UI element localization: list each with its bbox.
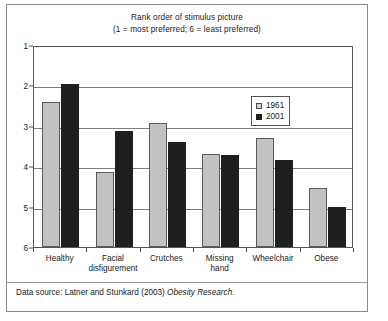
bar-2001-wheelchair bbox=[275, 160, 293, 247]
footer-divider bbox=[7, 282, 367, 283]
source-note-prefix: Data source: Latner and Stunkard (2003) bbox=[16, 288, 167, 297]
bar-1961-wheelchair bbox=[256, 138, 274, 247]
plot-area bbox=[33, 46, 353, 248]
bar-1961-missing-hand bbox=[202, 154, 220, 247]
x-axis-tick-mark bbox=[33, 248, 34, 252]
y-axis-tick-mark bbox=[29, 86, 33, 87]
x-axis-label-line: disfigurement bbox=[86, 264, 139, 274]
y-axis-tick-label: 2 bbox=[8, 82, 28, 91]
x-axis-label-obese: Obese bbox=[300, 254, 353, 264]
y-axis-tick-label: 3 bbox=[8, 122, 28, 131]
x-axis-label-line: Facial bbox=[86, 254, 139, 264]
chart-title-line-2: (1 = most preferred; 6 = least preferred… bbox=[7, 24, 367, 36]
x-axis-label-wheelchair: Wheelchair bbox=[246, 254, 299, 264]
y-axis-tick-label: 4 bbox=[8, 163, 28, 172]
y-axis-tick-label: 5 bbox=[8, 203, 28, 212]
bar-2001-crutches bbox=[168, 142, 186, 247]
legend-item-2001: 2001 bbox=[256, 111, 284, 122]
x-axis-label-line: Wheelchair bbox=[246, 254, 299, 264]
x-axis-tick-mark bbox=[300, 248, 301, 252]
source-note-suffix: . bbox=[232, 288, 234, 297]
bar-2001-facial-disfigurement bbox=[115, 131, 133, 247]
x-axis-labels: HealthyFacialdisfigurementCrutchesMissin… bbox=[33, 254, 353, 282]
x-axis-label-crutches: Crutches bbox=[140, 254, 193, 264]
bar-1961-crutches bbox=[149, 123, 167, 247]
x-axis-label-missing-hand: Missinghand bbox=[193, 254, 246, 274]
y-axis-tick-label: 1 bbox=[8, 42, 28, 51]
legend-label-1961: 1961 bbox=[266, 101, 284, 110]
x-axis-label-line: Crutches bbox=[140, 254, 193, 264]
x-axis-label-line: Obese bbox=[300, 254, 353, 264]
y-axis-tick-mark bbox=[29, 46, 33, 47]
y-axis-tick-label: 6 bbox=[8, 244, 28, 253]
x-axis-label-healthy: Healthy bbox=[33, 254, 86, 264]
x-axis-label-line: hand bbox=[193, 264, 246, 274]
y-axis-tick-mark bbox=[29, 167, 33, 168]
x-axis-label-facial-disfigurement: Facialdisfigurement bbox=[86, 254, 139, 274]
bar-2001-obese bbox=[328, 207, 346, 247]
legend-swatch-1961 bbox=[256, 103, 262, 109]
source-note-journal: Obesity Research bbox=[167, 288, 232, 297]
bar-1961-facial-disfigurement bbox=[96, 172, 114, 247]
bar-2001-missing-hand bbox=[221, 155, 239, 247]
x-axis-tick-mark bbox=[353, 248, 354, 252]
bar-1961-healthy bbox=[42, 102, 60, 247]
x-axis-tick-mark bbox=[193, 248, 194, 252]
figure-panel: Rank order of stimulus picture (1 = most… bbox=[6, 4, 368, 312]
legend-item-1961: 1961 bbox=[256, 100, 284, 111]
x-axis-ticks bbox=[33, 248, 353, 252]
legend-swatch-2001 bbox=[256, 114, 262, 120]
x-axis-label-line: Missing bbox=[193, 254, 246, 264]
bars-layer bbox=[34, 47, 352, 247]
legend-label-2001: 2001 bbox=[266, 112, 284, 121]
legend: 19612001 bbox=[251, 96, 290, 126]
x-axis-tick-mark bbox=[246, 248, 247, 252]
chart-title-line-1: Rank order of stimulus picture bbox=[7, 12, 367, 24]
chart-title: Rank order of stimulus picture (1 = most… bbox=[7, 12, 367, 36]
y-axis-tick-mark bbox=[29, 126, 33, 127]
bar-2001-healthy bbox=[61, 84, 79, 247]
bar-1961-obese bbox=[309, 188, 327, 247]
source-note: Data source: Latner and Stunkard (2003) … bbox=[16, 288, 234, 297]
x-axis-label-line: Healthy bbox=[33, 254, 86, 264]
x-axis-tick-mark bbox=[86, 248, 87, 252]
y-axis-tick-mark bbox=[29, 207, 33, 208]
x-axis-tick-mark bbox=[140, 248, 141, 252]
